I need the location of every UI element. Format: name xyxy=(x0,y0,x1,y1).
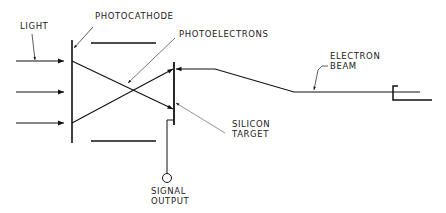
electron-beam xyxy=(176,69,420,92)
electron-beam-label-2: BEAM xyxy=(330,61,357,71)
photocathode-leader xyxy=(74,27,93,48)
silicon-target-leader xyxy=(176,103,225,133)
light-label: LIGHT xyxy=(20,21,49,31)
photoelectrons-label: PHOTOELECTRONS xyxy=(179,29,268,39)
signal-output-lead xyxy=(167,120,174,173)
electron-beam-leader-tail xyxy=(318,66,328,70)
silicon-target-label-2: TARGET xyxy=(231,129,269,139)
vidicon-diagram: LIGHT PHOTOCATHODE PHOTOELECTRONS SILICO… xyxy=(0,0,446,213)
light-leader xyxy=(32,34,35,60)
signal-output-label-1: SIGNAL xyxy=(151,186,186,196)
signal-output-label-2: OUTPUT xyxy=(151,196,189,206)
electron-beam-leader xyxy=(314,70,318,90)
photocathode-label: PHOTOCATHODE xyxy=(95,11,174,21)
silicon-target-label-1: SILICON xyxy=(232,119,270,129)
electron-beam-label-1: ELECTRON xyxy=(330,51,380,61)
light-arrows xyxy=(16,61,64,123)
photoelectron-path-2 xyxy=(72,69,173,123)
signal-output-terminal xyxy=(163,174,172,183)
electron-gun xyxy=(393,86,432,100)
photoelectron-path-1 xyxy=(72,61,173,109)
photoelectrons-leader xyxy=(128,38,175,83)
